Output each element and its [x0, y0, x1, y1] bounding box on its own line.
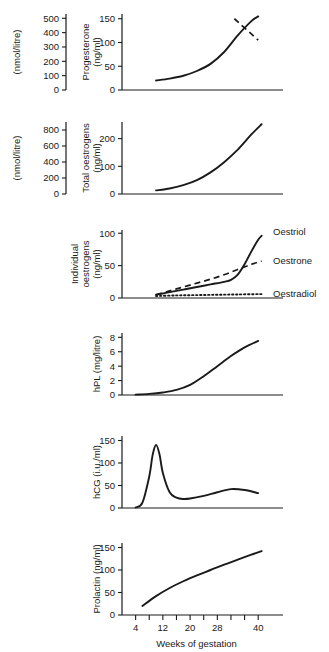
panel-total-oestrogens: 01002000200400600800(nmol/litre)Total oe… — [11, 122, 283, 199]
series-curve-hpl — [136, 341, 259, 395]
y-tick-secondary-label: 200 — [43, 56, 59, 67]
y-tick-secondary-label: 600 — [43, 140, 59, 151]
x-tick-label: 40 — [253, 622, 264, 633]
y-tick-label: 0 — [110, 502, 115, 513]
y-tick-label: 6 — [110, 346, 115, 357]
y-axis-title: (ng/ml) — [91, 249, 102, 279]
y-tick-secondary-label: 500 — [43, 13, 59, 24]
series-curve-oestradiol — [156, 294, 262, 296]
series-curve-oestrone — [156, 261, 262, 295]
y-axis-title: (ng/ml) — [91, 37, 102, 67]
x-axis-title: Weeks of gestation — [156, 638, 237, 649]
figure-svg: 0501001500100200300400500(nmol/litre)Pro… — [0, 0, 329, 652]
y-tick-label: 4 — [110, 361, 115, 372]
y-tick-secondary-label: 100 — [43, 70, 59, 81]
y-tick-label: 50 — [104, 61, 115, 72]
y-axis-title: Individual — [69, 244, 80, 284]
x-tick-label: 20 — [185, 622, 196, 633]
series-label-oestrone: Oestrone — [273, 255, 312, 266]
hormone-levels-figure: 0501001500100200300400500(nmol/litre)Pro… — [0, 0, 329, 652]
y-tick-secondary-label: 0 — [54, 188, 59, 199]
series-curve-oestriol — [156, 236, 262, 295]
y-tick-secondary-label: 400 — [43, 156, 59, 167]
y-tick-label: 0 — [110, 292, 115, 303]
panel-hcg: 050100150hCG (i.u./ml) — [91, 435, 283, 514]
series-curve-hcg — [136, 445, 259, 508]
y-tick-label: 0 — [110, 84, 115, 95]
y-axis-title: hPL (mg/litre) — [91, 336, 102, 393]
y-tick-label: 0 — [110, 609, 115, 620]
x-tick-label: 28 — [212, 622, 223, 633]
y-tick-label: 50 — [104, 480, 115, 491]
y-tick-label: 2 — [110, 375, 115, 386]
series-label-oestriol: Oestriol — [273, 226, 306, 237]
y-tick-label: 0 — [110, 389, 115, 400]
y-tick-secondary-label: 300 — [43, 41, 59, 52]
y-tick-label: 150 — [99, 13, 115, 24]
panel-individual-oestrogens: 050100Individualoestrogens(ng/ml)Oestrio… — [69, 226, 316, 304]
series-label-oestradiol: Oestradiol — [273, 288, 316, 299]
series-curve-prolactin — [142, 551, 261, 606]
y-axis-title: Total oestrogens — [80, 123, 91, 193]
y-tick-label: 200 — [99, 133, 115, 144]
panel-prolactin: 050100150Prolactin (ng/ml) — [91, 542, 283, 621]
y-tick-label: 50 — [104, 260, 115, 271]
y-tick-secondary-label: 800 — [43, 124, 59, 135]
y-tick-secondary-label: 200 — [43, 172, 59, 183]
y-axis-secondary-title: (nmol/litre) — [11, 30, 22, 75]
panel-progesterone: 0501001500100200300400500(nmol/litre)Pro… — [11, 13, 283, 96]
y-axis-title: oestrogens — [80, 240, 91, 287]
x-axis: 412202840Weeks of gestation — [133, 615, 264, 649]
x-tick-label: 4 — [133, 622, 138, 633]
y-tick-label: 0 — [110, 188, 115, 199]
y-tick-label: 8 — [110, 332, 115, 343]
series-curve-total-oestrogens — [156, 124, 262, 190]
y-axis-secondary-title: (nmol/litre) — [11, 136, 22, 181]
series-curve-term-marker — [234, 19, 258, 40]
y-axis-title: hCG (i.u./ml) — [91, 445, 102, 499]
y-axis-title: Prolactin (ng/ml) — [91, 544, 102, 613]
y-tick-secondary-label: 0 — [54, 84, 59, 95]
y-tick-secondary-label: 400 — [43, 27, 59, 38]
y-axis-title: Progesterone — [80, 23, 91, 80]
y-tick-label: 150 — [99, 435, 115, 446]
x-tick-label: 12 — [158, 622, 169, 633]
y-axis-title: (ng/ml) — [91, 143, 102, 173]
y-tick-label: 50 — [104, 587, 115, 598]
y-tick-label: 100 — [99, 228, 115, 239]
panel-hpl: 02468hPL (mg/litre) — [91, 332, 283, 401]
